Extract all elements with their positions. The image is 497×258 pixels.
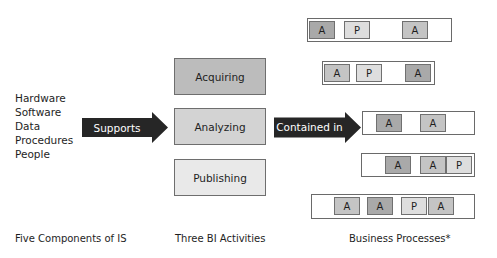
process-activity-a: A: [420, 114, 446, 132]
activity-letter: A: [319, 25, 326, 36]
component-data: Data: [15, 119, 73, 133]
process-activity-p: P: [356, 64, 382, 82]
business-process-2: A P A: [322, 61, 435, 85]
activity-letter: A: [412, 25, 419, 36]
activity-acquiring: Acquiring: [174, 58, 266, 95]
activity-letter: A: [395, 160, 402, 171]
supports-arrow: Supports: [82, 112, 168, 143]
process-activity-p: P: [401, 197, 427, 215]
process-activity-p: P: [446, 156, 472, 174]
activity-letter: P: [456, 160, 462, 171]
process-activity-a: A: [309, 21, 335, 39]
supports-label: Supports: [82, 118, 152, 137]
caption-components: Five Components of IS: [15, 233, 127, 244]
activity-label: Publishing: [193, 172, 247, 184]
process-activity-a: A: [402, 21, 428, 39]
activity-letter: P: [366, 68, 372, 79]
activity-letter: A: [438, 201, 445, 212]
caption-processes: Business Processes*: [349, 233, 451, 244]
activity-letter: P: [354, 25, 360, 36]
activity-letter: A: [430, 118, 437, 129]
process-activity-p: P: [344, 21, 370, 39]
process-activity-a: A: [367, 197, 393, 215]
activity-letter: A: [386, 118, 393, 129]
business-process-5: A A P A: [311, 194, 475, 219]
component-software: Software: [15, 105, 73, 119]
component-people: People: [15, 147, 73, 161]
activity-letter: A: [415, 68, 422, 79]
activity-letter: A: [344, 201, 351, 212]
process-activity-a: A: [334, 197, 360, 215]
activity-letter: A: [430, 160, 437, 171]
component-hardware: Hardware: [15, 91, 73, 105]
activity-publishing: Publishing: [174, 159, 266, 196]
is-components-list: Hardware Software Data Procedures People: [15, 91, 73, 161]
component-procedures: Procedures: [15, 133, 73, 147]
activity-label: Acquiring: [195, 71, 245, 83]
activity-letter: P: [411, 201, 417, 212]
activity-letter: A: [334, 68, 341, 79]
activity-analyzing: Analyzing: [174, 108, 266, 145]
process-activity-a: A: [324, 64, 350, 82]
caption-activities: Three BI Activities: [175, 233, 265, 244]
business-process-3: A A: [362, 111, 475, 135]
contained-in-arrow: Contained in: [274, 112, 361, 143]
activity-label: Analyzing: [194, 121, 245, 133]
process-activity-a: A: [376, 114, 402, 132]
business-process-4: A A P: [361, 153, 475, 177]
business-process-1: A P A: [307, 18, 452, 42]
process-activity-a: A: [405, 64, 431, 82]
process-activity-a: A: [420, 156, 446, 174]
process-activity-a: A: [428, 197, 454, 215]
contained-in-label: Contained in: [274, 117, 345, 137]
process-activity-a: A: [385, 156, 411, 174]
activity-letter: A: [377, 201, 384, 212]
